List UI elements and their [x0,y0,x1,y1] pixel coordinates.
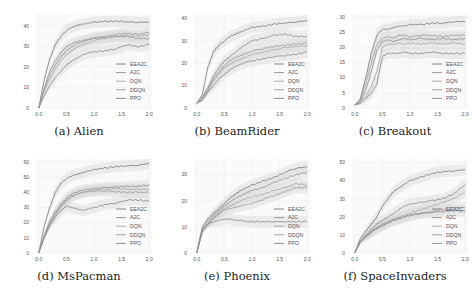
y-tick-label: 30 [23,204,29,210]
legend-label: EEA2C [130,61,147,67]
plot-area: 0.00.51.01.52.00102030405060EEA2CA2CDQND… [0,145,158,270]
plot-area: 0.00.51.01.52.0010203040EEA2CA2CDQNDDQNP… [158,0,316,125]
y-tick-label: 20 [181,198,187,204]
y-tick-label: 0 [342,250,345,256]
y-tick-label: 40 [181,15,187,21]
plot-area: 0.00.51.01.52.001020304050EEA2CA2CDQNDDQ… [316,145,474,270]
y-tick-label: 10 [181,224,187,230]
x-tick-label: 0.5 [63,256,70,262]
x-tick-label: 1.0 [249,256,256,262]
legend-label: A2C [446,69,456,75]
subplot-spaceinvaders: 0.00.51.01.52.001020304050EEA2CA2CDQNDDQ… [316,145,474,290]
x-tick-label: 0.0 [351,111,358,117]
x-tick-label: 0.5 [379,111,386,117]
y-tick-label: 10 [339,74,345,80]
y-tick-label: 0 [26,250,29,256]
legend-label: DDQN [130,87,146,93]
x-tick-label: 2.0 [462,256,469,262]
x-tick-label: 1.5 [276,256,283,262]
subplot-alien: 0.00.51.01.52.0010203040EEA2CA2CDQNDDQNP… [0,0,158,145]
legend-label: DQN [288,223,300,229]
y-tick-label: 0 [184,105,187,111]
legend-label: DQN [130,223,142,229]
legend-label: PPO [288,240,299,246]
x-tick-label: 1.0 [249,111,256,117]
legend-label: EEA2C [130,206,147,212]
legend-label: PPO [130,95,141,101]
legend-label: DQN [130,78,142,84]
subplot-caption: (b) BeamRider [158,124,316,138]
y-tick-label: 15 [339,59,345,65]
y-tick-label: 10 [23,235,29,241]
subplot-beamrider: 0.00.51.01.52.0010203040EEA2CA2CDQNDDQNP… [158,0,316,145]
x-tick-label: 2.0 [304,111,311,117]
subplot-mspacman: 0.00.51.01.52.00102030405060EEA2CA2CDQND… [0,145,158,290]
x-tick-label: 2.0 [146,256,153,262]
subplot-caption: (a) Alien [0,124,158,138]
legend-label: DDQN [446,232,462,238]
x-tick-label: 0.5 [379,256,386,262]
x-tick-label: 0.0 [35,256,42,262]
legend-label: DDQN [288,232,304,238]
legend-label: A2C [288,69,298,75]
legend-label: EEA2C [446,206,463,212]
legend-label: PPO [288,95,299,101]
y-tick-label: 20 [339,214,345,220]
subplot-caption: (d) MsPacman [0,269,158,283]
y-tick-label: 40 [339,177,345,183]
x-tick-label: 1.5 [118,111,125,117]
legend-label: DQN [446,78,458,84]
y-tick-label: 20 [339,44,345,50]
x-tick-label: 1.5 [434,256,441,262]
legend-label: EEA2C [446,61,463,67]
x-tick-label: 0.5 [221,111,228,117]
x-tick-label: 0.0 [351,256,358,262]
x-tick-label: 1.5 [118,256,125,262]
subplot-phoenix: 0.00.51.01.52.00102030EEA2CA2CDQNDDQNPPO… [158,145,316,290]
legend-label: DDQN [130,232,146,238]
y-tick-label: 10 [23,84,29,90]
x-tick-label: 1.5 [434,111,441,117]
y-tick-label: 20 [23,64,29,70]
legend-label: PPO [130,240,141,246]
x-tick-label: 0.5 [221,256,228,262]
y-tick-label: 40 [23,189,29,195]
subplot-caption: (f) SpaceInvaders [316,269,474,283]
y-tick-label: 30 [181,171,187,177]
y-tick-label: 0 [26,105,29,111]
plot-area: 0.00.51.01.52.00102030EEA2CA2CDQNDDQNPPO [158,145,316,270]
legend-label: A2C [130,214,140,220]
plot-area: 0.00.51.01.52.0010203040EEA2CA2CDQNDDQNP… [0,0,158,125]
x-tick-label: 2.0 [304,256,311,262]
legend-label: DDQN [288,87,304,93]
legend-label: PPO [446,95,457,101]
legend-label: DQN [446,223,458,229]
y-tick-label: 30 [339,196,345,202]
legend-label: DQN [288,78,300,84]
y-tick-label: 40 [23,23,29,29]
y-tick-label: 30 [23,43,29,49]
subplot-caption: (c) Breakout [316,124,474,138]
legend-label: DDQN [446,87,462,93]
y-tick-label: 10 [181,82,187,88]
x-tick-label: 1.0 [91,111,98,117]
subplot-caption: (e) Phoenix [158,269,316,283]
x-tick-label: 2.0 [146,111,153,117]
plot-area: 0.00.51.01.52.0051015202530EEA2CA2CDQNDD… [316,0,474,125]
x-tick-label: 1.5 [276,111,283,117]
y-tick-label: 20 [181,60,187,66]
legend-label: PPO [446,240,457,246]
x-tick-label: 0.0 [193,111,200,117]
x-tick-label: 0.0 [193,256,200,262]
y-tick-label: 0 [184,250,187,256]
y-tick-label: 5 [342,90,345,96]
y-tick-label: 0 [342,105,345,111]
x-tick-label: 1.0 [407,111,414,117]
x-tick-label: 0.5 [63,111,70,117]
y-tick-label: 30 [181,38,187,44]
legend-label: A2C [288,214,298,220]
subplot-breakout: 0.00.51.01.52.0051015202530EEA2CA2CDQNDD… [316,0,474,145]
x-tick-label: 0.0 [35,111,42,117]
y-tick-label: 10 [339,232,345,238]
y-tick-label: 25 [339,29,345,35]
